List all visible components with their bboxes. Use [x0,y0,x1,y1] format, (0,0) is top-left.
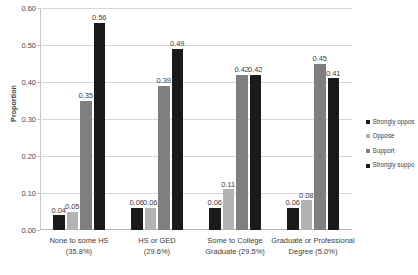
y-axis-tickmark [37,119,40,120]
bar-value-label: 0.42 [234,66,249,74]
bar-value-label: 0.39 [156,77,171,85]
y-axis-tick-label: 0.60 [21,4,36,13]
bar-value-label: 0.45 [312,55,327,63]
y-axis-tick-label: 0.40 [21,78,36,87]
legend-item[interactable]: Strongly oppos [366,117,418,127]
bar-value-label: 0.05 [65,203,80,211]
bar: 0.06 [209,208,221,230]
legend-swatch-icon [366,149,370,153]
bar-value-label: 0.56 [92,14,107,22]
bar-value-label: 0.04 [51,207,66,215]
chart-legend: Strongly opposOpposeSupportStrongly supp… [366,117,418,175]
bar-value-label: 0.35 [78,92,93,100]
y-axis-title: Proportion [10,69,17,139]
y-axis-tick-label: 0.10 [21,189,36,198]
bar-group: 0.060.080.450.41 [287,8,339,230]
x-axis-category-line: Graduate or Professional [262,236,364,247]
bar: 0.04 [53,215,65,230]
bar-value-label: 0.06 [143,199,158,207]
bar: 0.42 [250,75,262,230]
y-axis-tickmark [37,45,40,46]
bar-value-label: 0.06 [207,199,222,207]
legend-item[interactable]: Support [366,146,418,156]
bar: 0.11 [223,189,235,230]
legend-item-label: Support [373,148,395,154]
legend-item[interactable]: Oppose [366,132,418,142]
y-axis-tickmark [37,193,40,194]
legend-swatch-icon [366,134,370,138]
y-axis-tickmark [37,156,40,157]
x-axis-category-line: Degree (5.0%) [262,247,364,258]
legend-item-label: Strongly suppo [373,162,415,168]
bar: 0.56 [94,23,106,230]
bar: 0.08 [301,200,313,230]
y-axis-tickmark [37,82,40,83]
bar: 0.06 [287,208,299,230]
y-axis-tickmark [37,8,40,9]
y-axis-tick-label: 0.00 [21,226,36,235]
bar-value-label: 0.42 [248,66,263,74]
legend-item-label: Strongly oppos [373,119,415,125]
bar: 0.05 [67,212,79,231]
bar-value-label: 0.06 [285,199,300,207]
bar: 0.42 [236,75,248,230]
bar: 0.45 [314,64,326,231]
bar: 0.41 [328,78,340,230]
bar: 0.39 [158,86,170,230]
bar: 0.35 [80,101,92,231]
bar-group: 0.060.060.390.49 [131,8,183,230]
y-axis-tick-label: 0.20 [21,152,36,161]
bar-value-label: 0.49 [170,40,185,48]
bar: 0.49 [172,49,184,230]
bar: 0.06 [131,208,143,230]
y-axis-tick-label: 0.50 [21,41,36,50]
y-axis-tick-label: 0.30 [21,115,36,124]
bar-value-label: 0.41 [326,70,341,78]
bar-group: 0.040.050.350.56 [53,8,105,230]
bar-value-label: 0.11 [221,181,235,189]
bar: 0.06 [145,208,157,230]
y-axis-tickmark [37,230,40,231]
bar-chart: Proportion 0.600.500.400.300.200.100.00 … [0,0,418,275]
legend-swatch-icon [366,164,370,168]
legend-swatch-icon [366,120,370,124]
bar-value-label: 0.06 [129,199,144,207]
bar-group: 0.060.110.420.42 [209,8,261,230]
plot-area: 0.600.500.400.300.200.100.00 0.040.050.3… [40,8,352,230]
legend-item-label: Oppose [373,133,395,139]
legend-item[interactable]: Strongly suppo [366,161,418,171]
bar-value-label: 0.08 [299,192,314,200]
x-axis-category-label: Graduate or ProfessionalDegree (5.0%) [262,236,364,257]
